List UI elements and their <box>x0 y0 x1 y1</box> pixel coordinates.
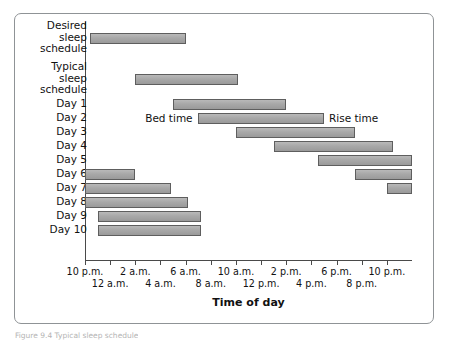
x-tick-label: 10 a.m. <box>218 266 255 277</box>
x-axis-tick <box>135 261 136 265</box>
x-tick-label: 4 p.m. <box>296 278 327 289</box>
row-label: Day 1 <box>9 98 87 110</box>
x-tick-label: 8 p.m. <box>346 278 377 289</box>
x-axis-tick <box>211 261 212 265</box>
figure-caption: Figure 9.4 Typical sleep schedule <box>15 331 138 342</box>
x-tick-label: 4 a.m. <box>145 278 175 289</box>
x-tick-label: 2 a.m. <box>120 266 150 277</box>
x-axis-tick <box>261 261 262 265</box>
row-label: Day 2 <box>9 112 87 124</box>
x-axis-tick <box>186 261 187 265</box>
x-tick-label: 10 p.m. <box>368 266 405 277</box>
sleep-bar <box>85 169 135 180</box>
x-axis-tick <box>85 261 86 265</box>
row-label: Day 3 <box>9 126 87 138</box>
x-tick-label: 10 p.m. <box>67 266 104 277</box>
sleep-bar <box>85 197 188 208</box>
x-tick-label: 12 a.m. <box>92 278 129 289</box>
row-label: Desired sleep schedule <box>9 20 87 55</box>
x-axis-tick <box>337 261 338 265</box>
row-label: Day 8 <box>9 196 87 208</box>
sleep-bar <box>98 211 201 222</box>
x-tick-label: 2 p.m. <box>271 266 302 277</box>
sleep-bar <box>135 74 238 85</box>
row-label: Typical sleep schedule <box>9 61 87 96</box>
row-label: Day 7 <box>9 182 87 194</box>
row-label: Day 4 <box>9 140 87 152</box>
x-axis-tick <box>110 261 111 265</box>
x-axis-tick <box>311 261 312 265</box>
figure-container: Time of day Figure 9.4 Typical sleep sch… <box>0 0 450 343</box>
x-axis-tick <box>236 261 237 265</box>
x-tick-label: 6 p.m. <box>321 266 352 277</box>
sleep-bar <box>85 183 171 194</box>
sleep-bar <box>355 169 412 180</box>
sleep-bar <box>90 33 186 44</box>
row-label: Day 6 <box>9 168 87 180</box>
x-axis-tick <box>286 261 287 265</box>
rise-time-annotation: Rise time <box>329 112 378 124</box>
sleep-bar <box>173 99 286 110</box>
x-axis-title: Time of day <box>85 296 412 309</box>
sleep-bar <box>98 225 201 236</box>
x-axis-tick <box>387 261 388 265</box>
sleep-bar <box>198 113 324 124</box>
row-label: Day 10 <box>9 224 87 236</box>
row-label: Day 5 <box>9 154 87 166</box>
x-tick-label: 8 a.m. <box>196 278 226 289</box>
row-label: Day 9 <box>9 210 87 222</box>
x-axis-line <box>85 260 412 261</box>
sleep-bar <box>236 127 355 138</box>
x-tick-label: 12 p.m. <box>243 278 280 289</box>
sleep-bar <box>387 183 412 194</box>
x-axis-tick <box>362 261 363 265</box>
bed-time-annotation: Bed time <box>145 112 192 124</box>
sleep-bar <box>318 155 412 166</box>
x-axis-tick <box>160 261 161 265</box>
sleep-bar <box>274 141 393 152</box>
x-tick-label: 6 a.m. <box>170 266 200 277</box>
